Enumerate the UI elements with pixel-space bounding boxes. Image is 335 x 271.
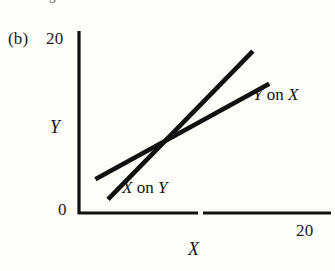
axis-lines — [78, 31, 331, 214]
regression-lines — [95, 51, 269, 199]
regression-line-y-on-x — [95, 84, 269, 180]
regression-line-x-on-y — [108, 51, 253, 199]
plot-canvas — [0, 0, 335, 271]
regression-figure-panel-b: regression lines (b) 20 0 20 Y X Y on X … — [0, 0, 335, 271]
